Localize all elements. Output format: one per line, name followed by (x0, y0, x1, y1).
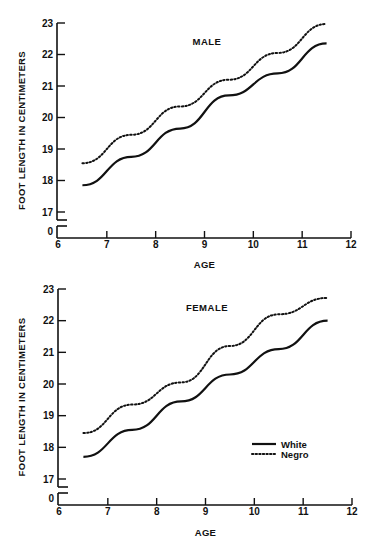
panel-title: MALE (193, 36, 222, 47)
y-tick-label: 23 (42, 18, 54, 29)
x-tick-label: 11 (297, 239, 308, 250)
x-tick-label: 10 (248, 239, 260, 250)
white-series-line (83, 321, 327, 457)
x-tick-label: 6 (55, 239, 61, 250)
y-tick-label: 19 (43, 410, 55, 421)
y-tick-label: 21 (43, 347, 55, 358)
x-axis-title: AGE (195, 527, 217, 538)
x-tick-label: 7 (105, 506, 111, 517)
female-panel: 0171819202122236789101112AGEFOOT LENGTH … (16, 284, 358, 539)
x-tick-label: 8 (153, 239, 159, 250)
panel-title: FEMALE (186, 302, 228, 313)
legend-negro-label: Negro (281, 449, 309, 460)
male-panel: 0171819202122236789101112AGEFOOT LENGTH … (16, 18, 357, 271)
y-tick-label: 17 (43, 474, 55, 485)
y-axis-title: FOOT LENGTH IN CENTIMETERS (16, 318, 27, 477)
y-tick-label: 19 (42, 144, 54, 155)
y-tick-label: 17 (42, 207, 54, 218)
x-tick-label: 6 (56, 506, 62, 517)
y-tick-label: 18 (43, 442, 55, 453)
y-axis-title: FOOT LENGTH IN CENTIMETERS (16, 51, 27, 210)
y-tick-label: 23 (43, 284, 55, 295)
x-tick-label: 7 (104, 239, 110, 250)
y-tick-label: 0 (47, 226, 53, 237)
x-tick-label: 9 (203, 506, 209, 517)
y-tick-label: 22 (43, 315, 55, 326)
x-tick-label: 11 (298, 506, 309, 517)
x-tick-label: 12 (345, 239, 357, 250)
x-axis-title: AGE (194, 259, 216, 270)
y-tick-label: 22 (42, 49, 54, 60)
y-tick-label: 18 (42, 175, 54, 186)
white-series-line (82, 43, 326, 185)
cut-off-caption (100, 543, 365, 551)
x-tick-label: 9 (202, 239, 208, 250)
foot-length-chart: 0171819202122236789101112AGEFOOT LENGTH … (0, 0, 372, 551)
x-tick-label: 12 (346, 506, 358, 517)
negro-series-line (83, 298, 327, 433)
y-tick-label: 20 (43, 379, 55, 390)
x-tick-label: 8 (154, 506, 160, 517)
y-tick-label: 0 (48, 493, 54, 504)
x-tick-label: 10 (249, 506, 261, 517)
y-tick-label: 21 (42, 81, 54, 92)
y-tick-label: 20 (42, 112, 54, 123)
